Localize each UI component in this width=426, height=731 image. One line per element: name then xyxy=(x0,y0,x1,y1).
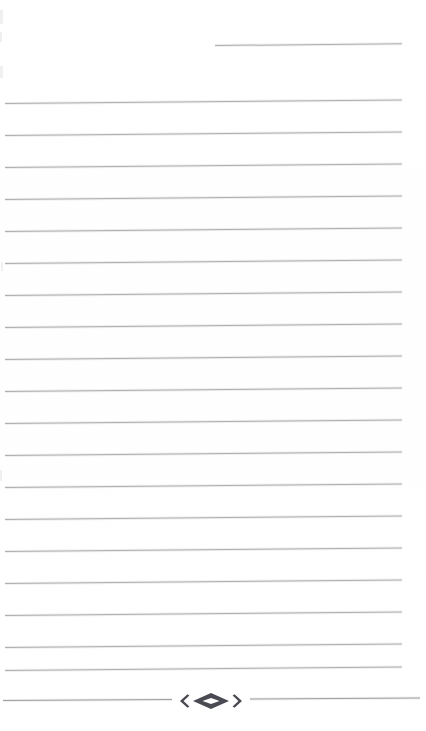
ruled-line xyxy=(5,228,402,232)
ruled-line xyxy=(5,260,402,264)
footer-ornament-divider xyxy=(0,688,426,714)
scanned-page xyxy=(0,0,426,731)
ruled-line xyxy=(5,132,402,136)
ruled-line xyxy=(5,516,402,520)
ruled-line xyxy=(5,164,402,168)
ruled-line xyxy=(5,292,402,296)
ruled-line xyxy=(5,548,402,552)
ruled-line xyxy=(5,388,402,392)
scan-artifact xyxy=(0,32,2,42)
scan-artifact xyxy=(0,10,3,24)
ruled-line xyxy=(5,484,402,488)
ruled-line xyxy=(5,324,402,328)
ruled-line xyxy=(5,644,402,648)
ruled-line xyxy=(5,420,402,424)
ruled-line xyxy=(5,452,402,456)
diamond-bracket-ornament-icon xyxy=(172,688,250,714)
ruled-line xyxy=(5,580,402,584)
scan-artifact xyxy=(0,66,3,78)
ruled-line xyxy=(5,356,402,360)
paper-background xyxy=(0,0,426,731)
ruled-line xyxy=(215,43,402,46)
scan-artifact xyxy=(1,262,3,271)
ruled-line xyxy=(5,100,402,104)
ruled-line xyxy=(5,196,402,200)
ruled-line xyxy=(5,667,402,671)
scan-artifact xyxy=(0,470,2,481)
ruled-line xyxy=(5,612,402,616)
